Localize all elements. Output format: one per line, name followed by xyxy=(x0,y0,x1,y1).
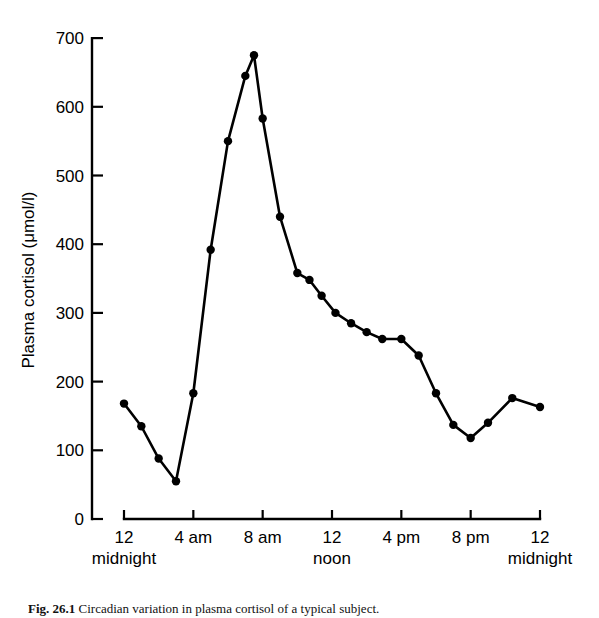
x-tick-sublabel-0: midnight xyxy=(92,549,157,568)
y-tick-label-100: 100 xyxy=(56,441,84,460)
data-point xyxy=(305,276,313,284)
data-point xyxy=(347,319,355,327)
y-axis-title: Plasma cortisol (μmol/l) xyxy=(19,192,38,369)
caption-label: Fig. 26.1 xyxy=(28,601,75,616)
data-point xyxy=(250,51,258,59)
y-tick-label-400: 400 xyxy=(56,235,84,254)
data-point xyxy=(536,403,544,411)
x-tick-label-5: 8 pm xyxy=(452,528,490,547)
data-point xyxy=(206,246,214,254)
y-axis-tick-labels: 0100200300400500600700 xyxy=(56,29,84,529)
x-axis-tick-sublabels: midnightnoonmidnight xyxy=(92,549,573,568)
figure-caption: Fig. 26.1 Circadian variation in plasma … xyxy=(28,601,588,618)
data-point xyxy=(293,269,301,277)
data-point xyxy=(137,422,145,430)
data-point xyxy=(508,394,516,402)
cortisol-line-chart: Plasma cortisol (μmol/l) 010020030040050… xyxy=(0,0,599,600)
x-tick-label-2: 8 am xyxy=(244,528,282,547)
data-point xyxy=(378,335,386,343)
data-point xyxy=(224,137,232,145)
caption-text: Circadian variation in plasma cortisol o… xyxy=(79,601,380,616)
x-tick-sublabel-6: midnight xyxy=(508,549,573,568)
data-point xyxy=(154,454,162,462)
data-point xyxy=(276,213,284,221)
figure-container: Plasma cortisol (μmol/l) 010020030040050… xyxy=(0,0,599,618)
data-point xyxy=(189,389,197,397)
data-point xyxy=(466,434,474,442)
data-point xyxy=(241,72,249,80)
x-tick-sublabel-3: noon xyxy=(313,549,351,568)
y-tick-label-0: 0 xyxy=(75,510,84,529)
y-axis-ticks xyxy=(92,38,103,519)
y-tick-label-500: 500 xyxy=(56,167,84,186)
y-tick-label-300: 300 xyxy=(56,304,84,323)
y-tick-label-700: 700 xyxy=(56,29,84,48)
data-point xyxy=(258,114,266,122)
data-point xyxy=(484,419,492,427)
data-point xyxy=(449,421,457,429)
data-point xyxy=(432,389,440,397)
x-tick-label-6: 12 xyxy=(531,528,550,547)
y-tick-label-600: 600 xyxy=(56,98,84,117)
data-point xyxy=(414,351,422,359)
data-point xyxy=(317,292,325,300)
x-axis-ticks xyxy=(124,510,540,519)
cortisol-series-line xyxy=(124,55,540,481)
data-point xyxy=(120,399,128,407)
data-point xyxy=(331,309,339,317)
data-point xyxy=(362,328,370,336)
data-point xyxy=(172,477,180,485)
x-tick-label-0: 12 xyxy=(115,528,134,547)
cortisol-data-points xyxy=(120,51,544,485)
y-tick-label-200: 200 xyxy=(56,373,84,392)
x-tick-label-1: 4 am xyxy=(174,528,212,547)
x-tick-label-4: 4 pm xyxy=(382,528,420,547)
x-tick-label-3: 12 xyxy=(323,528,342,547)
data-point xyxy=(397,335,405,343)
x-axis-tick-labels: 124 am8 am124 pm8 pm12 xyxy=(115,528,550,547)
